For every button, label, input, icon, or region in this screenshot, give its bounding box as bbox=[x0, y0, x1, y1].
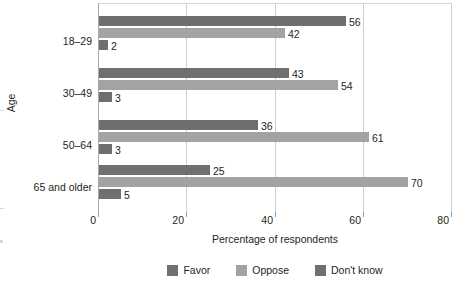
gridline-80 bbox=[451, 3, 452, 212]
x-tick-label-60: 60 bbox=[349, 214, 363, 226]
bar-18-29-oppose bbox=[99, 28, 285, 38]
bar-50-64-favor bbox=[99, 120, 258, 130]
bar-value-50-64-favor: 36 bbox=[261, 121, 273, 131]
bar-18-29-dont-know bbox=[99, 40, 108, 50]
legend-swatch-dont-know bbox=[315, 265, 326, 276]
legend-label-dont-know: Don't know bbox=[331, 264, 383, 276]
bar-50-64-oppose bbox=[99, 132, 369, 142]
x-tick-label-20: 20 bbox=[172, 214, 186, 226]
legend-swatch-favor bbox=[167, 265, 178, 276]
bar-30-49-oppose bbox=[99, 80, 338, 90]
bar-value-18-29-favor: 56 bbox=[349, 17, 361, 27]
bar-30-49-dont-know bbox=[99, 92, 112, 102]
x-tick-label-0: 0 bbox=[90, 214, 98, 226]
legend-item-dont-know: Don't know bbox=[315, 264, 383, 276]
category-label-50-64: 50–64 bbox=[2, 139, 92, 151]
legend-label-favor: Favor bbox=[183, 264, 210, 276]
plot-area: 56 42 2 43 54 3 36 61 3 25 70 5 bbox=[98, 3, 452, 212]
x-tick-label-80: 80 bbox=[437, 214, 451, 226]
category-labels: 18–29 30–49 50–64 65 and older bbox=[0, 3, 92, 212]
legend-swatch-oppose bbox=[236, 265, 247, 276]
bar-50-64-dont-know bbox=[99, 144, 112, 154]
bar-65-and-older-favor bbox=[99, 165, 210, 175]
legend-label-oppose: Oppose bbox=[252, 264, 289, 276]
bar-18-29-favor bbox=[99, 16, 346, 26]
category-label-30-49: 30–49 bbox=[2, 87, 92, 99]
bar-value-50-64-dont-know: 3 bbox=[115, 145, 121, 155]
legend-item-favor: Favor bbox=[167, 264, 210, 276]
bar-value-65-and-older-dont-know: 5 bbox=[124, 190, 130, 200]
bar-chart-figure: Age 18–29 30–49 50–64 65 and older 56 42… bbox=[0, 0, 463, 294]
x-axis-title: Percentage of respondents bbox=[98, 233, 452, 245]
bar-value-30-49-dont-know: 3 bbox=[115, 93, 121, 103]
category-label-65-and-older: 65 and older bbox=[2, 181, 92, 193]
chart-legend: Favor Oppose Don't know bbox=[98, 261, 452, 279]
bar-30-49-favor bbox=[99, 68, 289, 78]
bar-value-65-and-older-favor: 25 bbox=[213, 166, 225, 176]
bar-value-18-29-oppose: 42 bbox=[288, 29, 300, 39]
category-label-18-29: 18–29 bbox=[2, 35, 92, 47]
bar-value-30-49-favor: 43 bbox=[292, 69, 304, 79]
bar-value-50-64-oppose: 61 bbox=[372, 133, 384, 143]
bar-value-18-29-dont-know: 2 bbox=[111, 41, 117, 51]
bar-65-and-older-oppose bbox=[99, 177, 408, 187]
bar-value-65-and-older-oppose: 70 bbox=[411, 178, 423, 188]
x-tick-label-40: 40 bbox=[261, 214, 275, 226]
edge-artifact bbox=[0, 240, 3, 243]
legend-item-oppose: Oppose bbox=[236, 264, 289, 276]
bar-65-and-older-dont-know bbox=[99, 189, 121, 199]
x-axis-tick-labels: 0 20 40 60 80 bbox=[98, 214, 458, 230]
bar-value-30-49-oppose: 54 bbox=[341, 81, 353, 91]
